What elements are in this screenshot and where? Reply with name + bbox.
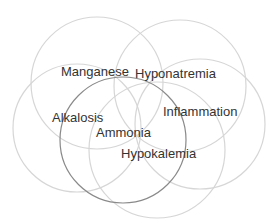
- label-hyponatremia: Hyponatremia: [135, 67, 216, 80]
- label-inflammation: Inflammation: [163, 105, 237, 118]
- circle-ammonia: [60, 77, 186, 203]
- label-ammonia: Ammonia: [96, 126, 151, 139]
- label-manganese: Manganese: [61, 65, 129, 78]
- label-alkalosis: Alkalosis: [52, 111, 103, 124]
- label-hypokalemia: Hypokalemia: [121, 147, 196, 160]
